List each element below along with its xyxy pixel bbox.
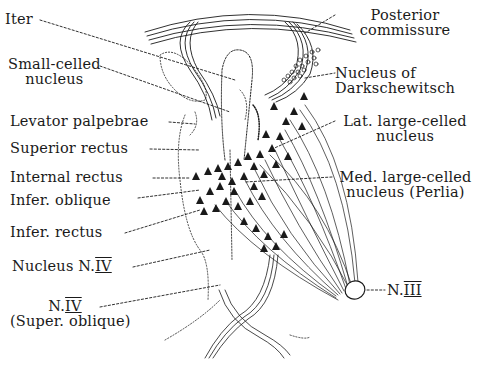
small-celled-nucleus-outline [160, 52, 206, 101]
label-iter: Iter [5, 12, 33, 27]
label-internal-rectus: Internal rectus [10, 170, 123, 185]
posterior-commissure-fibers [145, 14, 356, 44]
label-levator-palpebrae: Levator palpebrae [10, 114, 148, 129]
label-small-celled-nucleus: Small-cellednucleus [8, 57, 101, 87]
label-nucleus-of-darkschewitsch: Nucleus ofDarkschewitsch [335, 66, 455, 96]
label-nucleus-n4: Nucleus N.IV [12, 259, 112, 274]
trochlear-fibers [205, 255, 290, 358]
label-n3: N.III [387, 283, 422, 298]
commissural-loops [180, 22, 313, 120]
iter-outline [221, 50, 252, 160]
label-infer-rectus: Infer. rectus [10, 225, 102, 240]
motor-neurons [192, 92, 308, 252]
label-lat-large-celled-nucleus: Lat. large-cellednucleus [335, 114, 475, 144]
label-n4-super-oblique: N.IV (Super. oblique) [10, 299, 120, 329]
diagram-canvas: Iter Small-cellednucleus Levator palpebr… [0, 0, 480, 367]
label-superior-rectus: Superior rectus [10, 141, 128, 156]
label-posterior-commissure: Posteriorcommissure [335, 8, 475, 38]
label-med-large-celled-nucleus: Med. large-cellednucleus (Perlia) [333, 170, 478, 200]
label-infer-oblique: Infer. oblique [10, 193, 111, 208]
